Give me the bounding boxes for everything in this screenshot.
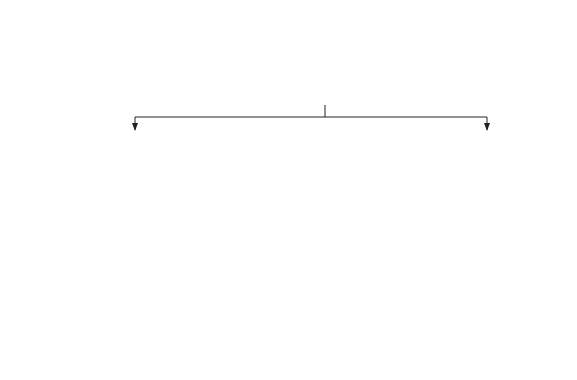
diagram-lines — [0, 0, 577, 380]
